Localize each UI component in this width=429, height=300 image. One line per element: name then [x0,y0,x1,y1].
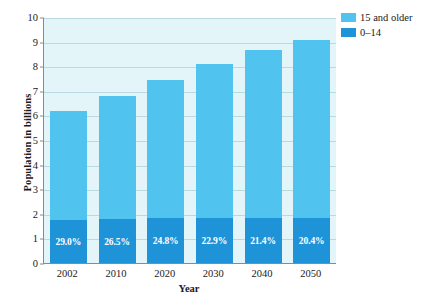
y-tick-label-4: 4 [14,160,38,171]
legend-label-0: 15 and older [360,11,413,24]
y-tick-label-7: 7 [14,87,38,98]
chart-figure: Population in billions 012345678910 29.0… [0,0,429,300]
bar-segment-15-and-older-2020[interactable] [147,80,184,219]
y-tick-label-10: 10 [14,13,38,24]
gridline-10 [44,18,336,19]
y-tick-mark-10 [40,18,44,19]
bar-segment-15-and-older-2030[interactable] [196,64,233,218]
bar-segment-0-14-2020[interactable]: 24.8% [147,218,184,264]
y-tick-mark-3 [40,190,44,191]
x-tick-label-2050: 2050 [283,268,339,279]
legend-label-1: 0–14 [360,26,381,39]
bar-segment-15-and-older-2010[interactable] [99,96,136,220]
y-tick-label-3: 3 [14,185,38,196]
legend-swatch-icon-1 [341,28,356,37]
bar-group-2020[interactable]: 24.8% [147,80,184,265]
y-tick-mark-4 [40,165,44,166]
bar-group-2030[interactable]: 22.9% [196,64,233,264]
y-tick-mark-8 [40,67,44,68]
bar-segment-0-14-2040[interactable]: 21.4% [245,218,282,264]
bar-group-2010[interactable]: 26.5% [99,96,136,265]
legend-item-1[interactable]: 0–14 [341,26,429,40]
plot-area: 29.0%26.5%24.8%22.9%21.4%20.4% [43,18,336,264]
bar-segment-15-and-older-2002[interactable] [50,111,87,219]
bar-segment-0-14-2030[interactable]: 22.9% [196,218,233,264]
bar-percent-label-2002: 29.0% [50,237,87,247]
bar-percent-label-2030: 22.9% [196,236,233,246]
y-tick-mark-9 [40,42,44,43]
bar-segment-15-and-older-2050[interactable] [293,40,330,218]
x-tick-label-2040: 2040 [234,268,290,279]
y-tick-label-8: 8 [14,62,38,73]
y-tick-mark-2 [40,214,44,215]
x-tick-label-2030: 2030 [185,268,241,279]
x-axis-title: Year [43,283,335,294]
y-tick-label-5: 5 [14,136,38,147]
bar-percent-label-2040: 21.4% [245,236,282,246]
bar-group-2002[interactable]: 29.0% [50,111,87,264]
legend-item-0[interactable]: 15 and older [341,11,429,25]
bar-percent-label-2020: 24.8% [147,236,184,246]
bar-percent-label-2010: 26.5% [99,237,136,247]
y-tick-label-9: 9 [14,37,38,48]
bar-percent-label-2050: 20.4% [293,236,330,246]
y-axis-tick-labels: 012345678910 [14,18,38,264]
y-tick-mark-7 [40,91,44,92]
bar-segment-15-and-older-2040[interactable] [245,50,282,218]
bar-group-2040[interactable]: 21.4% [245,50,282,264]
y-tick-label-1: 1 [14,234,38,245]
plot-inner: 29.0%26.5%24.8%22.9%21.4%20.4% [44,18,336,264]
chart-legend: 15 and older0–14 [341,11,429,41]
x-axis-line [44,263,336,264]
bar-group-2050[interactable]: 20.4% [293,40,330,264]
y-tick-mark-6 [40,116,44,117]
bar-segment-0-14-2050[interactable]: 20.4% [293,218,330,264]
y-tick-label-0: 0 [14,259,38,270]
y-tick-label-6: 6 [14,111,38,122]
x-tick-label-2002: 2002 [39,268,95,279]
y-tick-label-2: 2 [14,210,38,221]
bar-segment-0-14-2002[interactable]: 29.0% [50,220,87,264]
legend-swatch-icon-0 [341,13,356,22]
x-tick-label-2020: 2020 [137,268,193,279]
x-tick-label-2010: 2010 [88,268,144,279]
y-tick-mark-1 [40,239,44,240]
y-tick-mark-5 [40,141,44,142]
bar-segment-0-14-2010[interactable]: 26.5% [99,219,136,264]
